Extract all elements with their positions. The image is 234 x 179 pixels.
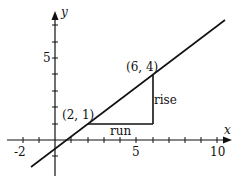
slope-diagram: -2 5 10 5 x y (2, 1) (6, 4) run rise <box>0 0 234 179</box>
y-axis-label: y <box>60 5 68 19</box>
x-tick-label-10: 10 <box>210 145 225 159</box>
x-axis-arrow-icon <box>223 137 232 144</box>
point-label-6-4: (6, 4) <box>126 60 158 74</box>
x-tick-label-5: 5 <box>132 145 140 159</box>
rise-label: rise <box>154 93 177 107</box>
x-tick-label-neg2: -2 <box>14 145 26 159</box>
y-axis-arrow-icon <box>52 11 59 20</box>
run-label: run <box>110 124 131 138</box>
point-label-2-1: (2, 1) <box>62 108 94 122</box>
x-axis-label: x <box>224 123 231 137</box>
slope-line <box>31 20 225 167</box>
y-tick-label-5: 5 <box>43 51 51 65</box>
